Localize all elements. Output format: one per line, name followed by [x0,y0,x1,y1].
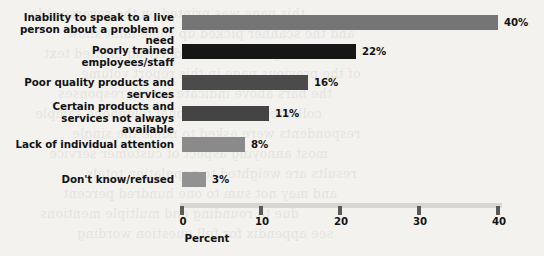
x-axis-tick [180,206,184,215]
bar-value-label: 3% [212,174,229,185]
x-axis-tick [259,206,263,215]
category-label: Certain products and services not always… [8,101,174,136]
category-label-line: Inability to speak to a live [8,12,174,24]
x-axis-tick-label: 0 [179,216,186,227]
x-axis-title-text: Percent [185,232,230,244]
bar-value-label: 16% [314,77,338,88]
bar-dont-know-refused [182,172,206,187]
bar-value-label: 11% [275,108,299,119]
x-axis-tick-label: 30 [413,216,427,227]
category-label-line: Certain products and [8,101,174,113]
x-axis-tick [417,206,421,215]
category-label-line: Poor quality products and services [8,77,174,100]
bar-chart: this page was printed on the reverse sid… [0,0,544,256]
x-axis-title: Percent [0,232,544,244]
bar-value-label: 22% [362,46,386,57]
plot-area: Inability to speak to a live person abou… [0,0,544,256]
bar-poor-quality-products [182,75,308,90]
bar-poorly-trained-employees [182,44,356,59]
category-label-line: Don't know/refused [8,174,174,186]
bar-value-label: 8% [251,139,268,150]
category-label: Lack of individual attention [8,139,174,151]
category-label-line: services not always available [8,113,174,136]
category-label: Inability to speak to a live person abou… [8,12,174,47]
bar-certain-products-unavailable [182,106,269,121]
category-label: Don't know/refused [8,174,174,186]
bar-lack-of-individual-attention [182,137,245,152]
x-axis-tick-label: 20 [334,216,348,227]
category-label: Poor quality products and services [8,77,174,100]
category-label-line: Lack of individual attention [8,139,174,151]
x-axis-tick [338,206,342,215]
x-axis-tick [496,206,500,215]
category-label: Poorly trained employees/staff [8,45,174,68]
category-label-line: Poorly trained employees/staff [8,45,174,68]
bar-value-label: 40% [504,17,528,28]
bar-inability-to-speak [182,15,498,30]
x-axis-tick-label: 40 [492,216,506,227]
x-axis-tick-label: 10 [255,216,269,227]
